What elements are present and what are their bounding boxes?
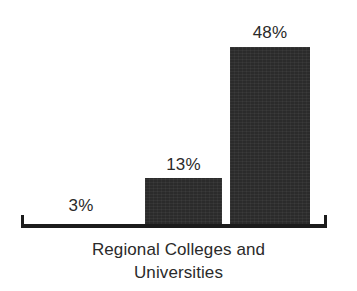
chart-caption: Regional Colleges and Universities bbox=[0, 238, 357, 284]
axis-bracket bbox=[21, 215, 327, 228]
value-label-3-percent: 3% bbox=[42, 196, 120, 216]
caption-line-2: Universities bbox=[0, 261, 357, 284]
bar-48-percent bbox=[230, 47, 310, 228]
value-label-48-percent: 48% bbox=[230, 23, 310, 43]
caption-line-1: Regional Colleges and bbox=[0, 238, 357, 261]
bar-chart-figure: 3% 13% 48% Regional Colleges and Univers… bbox=[0, 0, 357, 291]
plot-area: 3% 13% 48% bbox=[0, 0, 357, 232]
value-label-13-percent: 13% bbox=[145, 155, 222, 175]
